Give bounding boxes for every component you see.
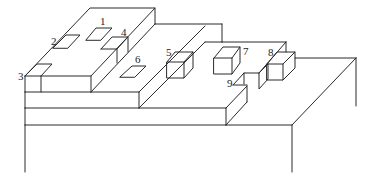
block-8	[259, 42, 295, 80]
part-labels: 1 2 3 4 5 6 7 8 9	[18, 15, 274, 89]
label-3: 3	[18, 70, 24, 82]
structure-drawing: 1 2 3 4 5 6 7 8 9	[0, 0, 373, 181]
block-7	[214, 47, 240, 74]
label-6: 6	[135, 53, 141, 65]
label-5: 5	[166, 46, 172, 58]
label-1: 1	[100, 15, 106, 27]
top-slab	[25, 8, 155, 92]
base-table	[25, 58, 356, 172]
label-8: 8	[268, 46, 274, 58]
label-2: 2	[51, 35, 57, 47]
label-7: 7	[243, 45, 249, 57]
diagram-canvas: 1 2 3 4 5 6 7 8 9	[0, 0, 373, 181]
label-9: 9	[227, 77, 233, 89]
label-4: 4	[121, 26, 127, 38]
